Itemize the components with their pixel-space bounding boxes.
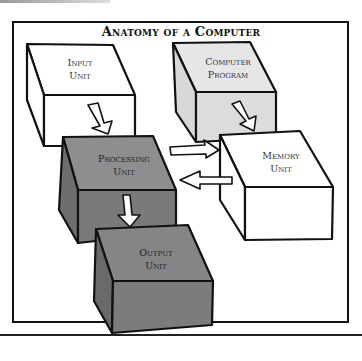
diagram-canvas	[0, 0, 362, 361]
output-unit-label: Output Unit	[124, 246, 188, 272]
input-unit-label: Input Unit	[50, 56, 110, 82]
computer-program-line1: Computer	[190, 55, 266, 68]
arrow-processing-to-memory	[170, 140, 219, 158]
processing-unit-label: Processing Unit	[84, 152, 164, 178]
processing-unit-line1: Processing	[84, 152, 164, 165]
input-unit-line2: Unit	[50, 69, 110, 82]
computer-program-line2: Program	[190, 68, 266, 81]
memory-unit-label: Memory Unit	[246, 149, 316, 175]
output-unit-line1: Output	[124, 246, 188, 259]
input-unit-line1: Input	[50, 56, 110, 69]
output-unit-box	[94, 225, 213, 333]
memory-unit-line2: Unit	[246, 162, 316, 175]
processing-unit-line2: Unit	[84, 165, 164, 178]
memory-unit-line1: Memory	[246, 149, 316, 162]
computer-program-label: Computer Program	[190, 55, 266, 81]
memory-unit-box	[220, 131, 333, 240]
bottom-rule	[0, 334, 362, 336]
output-unit-line2: Unit	[124, 259, 188, 272]
